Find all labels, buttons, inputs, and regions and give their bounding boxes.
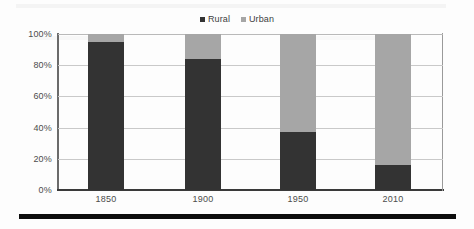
legend-swatch-rural xyxy=(200,17,205,22)
chart-legend: Rural Urban xyxy=(0,14,474,24)
plot-area xyxy=(58,34,443,190)
x-tick-label-1850: 1850 xyxy=(76,194,136,204)
bar-stack xyxy=(88,34,124,190)
legend-item-urban[interactable]: Urban xyxy=(241,14,274,24)
legend-label-urban: Urban xyxy=(249,14,274,24)
bar-segment-rural-2010[interactable] xyxy=(375,165,411,190)
bar-segment-rural-1950[interactable] xyxy=(280,132,316,190)
bar-segment-rural-1900[interactable] xyxy=(185,59,221,190)
bar-group-2010[interactable] xyxy=(375,34,411,190)
y-tick-label-20: 20% xyxy=(6,154,52,164)
legend-item-rural[interactable]: Rural xyxy=(200,14,230,24)
x-tick-label-1950: 1950 xyxy=(268,194,328,204)
y-tick-label-40: 40% xyxy=(6,123,52,133)
y-tick-label-100: 100% xyxy=(6,29,52,39)
bar-segment-urban-1950[interactable] xyxy=(280,34,316,132)
bar-segment-urban-2010[interactable] xyxy=(375,34,411,165)
bar-group-1850[interactable] xyxy=(88,34,124,190)
bar-stack xyxy=(185,34,221,190)
y-tick-label-60: 60% xyxy=(6,91,52,101)
bar-segment-urban-1850[interactable] xyxy=(88,34,124,42)
page-bottom-rule xyxy=(19,214,456,219)
legend-swatch-urban xyxy=(241,17,246,22)
y-tick-label-0: 0% xyxy=(6,185,52,195)
y-tick-label-80: 80% xyxy=(6,60,52,70)
bar-segment-rural-1850[interactable] xyxy=(88,42,124,190)
bar-group-1900[interactable] xyxy=(185,34,221,190)
bar-group-1950[interactable] xyxy=(280,34,316,190)
stacked-bar-chart: Rural Urban 100% 80% 60% 40% 20% 0% xyxy=(0,0,474,205)
bar-segment-urban-1900[interactable] xyxy=(185,34,221,59)
x-tick-label-1900: 1900 xyxy=(173,194,233,204)
bar-stack xyxy=(375,34,411,190)
bar-stack xyxy=(280,34,316,190)
scanned-page: Rural Urban 100% 80% 60% 40% 20% 0% xyxy=(0,0,474,229)
legend-label-rural: Rural xyxy=(208,14,230,24)
x-tick-label-2010: 2010 xyxy=(363,194,423,204)
x-axis-labels: 1850 1900 1950 2010 xyxy=(58,194,443,208)
y-axis-labels: 100% 80% 60% 40% 20% 0% xyxy=(0,34,52,190)
